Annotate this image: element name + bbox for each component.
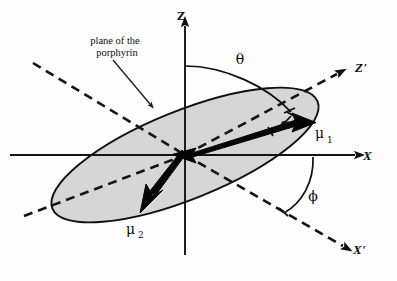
figure-root: Z X Z' X' θ α ϕ μ 1 μ 2 plane of the por… xyxy=(0,0,397,281)
angle-phi-label: ϕ xyxy=(308,188,318,204)
mu-2-symbol: μ xyxy=(126,221,135,237)
angle-alpha-label: α xyxy=(280,116,290,132)
mu-1-symbol: μ xyxy=(315,125,324,141)
x-axis-label: X xyxy=(362,148,372,163)
mu-1-subscript: 1 xyxy=(327,135,333,145)
mu-2-subscript: 2 xyxy=(138,230,144,240)
angle-arc-phi xyxy=(279,157,313,216)
angle-theta-label: θ xyxy=(236,51,244,67)
plane-caption: plane of the porphyrin xyxy=(90,35,140,58)
z-prime-axis-line-left xyxy=(33,63,185,155)
z-axis-label: Z xyxy=(177,8,186,23)
plane-caption-line-2: porphyrin xyxy=(96,47,138,58)
x-prime-axis-label: X' xyxy=(352,242,366,257)
mu-1-label: μ 1 xyxy=(315,125,333,145)
porphyrin-orientation-diagram: Z X Z' X' θ α ϕ μ 1 μ 2 plane of the por… xyxy=(0,0,397,281)
plane-caption-line-1: plane of the xyxy=(90,35,140,46)
plane-caption-leader xyxy=(113,60,150,104)
mu-2-label: μ 2 xyxy=(126,221,144,240)
z-prime-axis-label: Z' xyxy=(354,60,367,75)
